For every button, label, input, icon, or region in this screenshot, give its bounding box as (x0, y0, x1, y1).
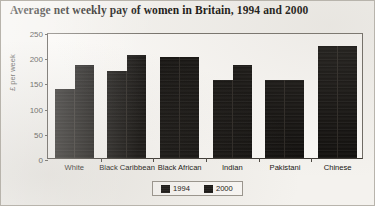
bar-group (48, 34, 101, 158)
bar-2000 (338, 46, 357, 158)
bar-group (153, 34, 206, 158)
x-axis-tick-label: Indian (222, 163, 243, 172)
y-axis-label: £ per week (8, 54, 17, 91)
bar-1994 (318, 46, 338, 158)
bar-series-container (48, 34, 362, 158)
bar-group (311, 34, 364, 158)
x-axis-tick-mark (206, 158, 207, 162)
y-axis-tick-label: 100 (30, 105, 43, 114)
bar-2000 (75, 65, 94, 158)
bar-2000 (233, 65, 252, 158)
x-axis-tick-mark (311, 158, 312, 162)
bar-2000 (127, 55, 146, 158)
x-axis-tick-label: White (65, 163, 84, 172)
bar-2000 (180, 57, 199, 158)
chart-figure: Average net weekly pay of women in Brita… (0, 0, 375, 206)
y-axis-tick-label: 0 (39, 156, 43, 165)
bar-1994 (213, 80, 233, 158)
bar-group (259, 34, 312, 158)
bar-2000 (285, 80, 304, 158)
y-axis-tick-label: 250 (30, 30, 43, 39)
x-axis-tick-mark (101, 158, 102, 162)
y-axis-tick-label: 50 (34, 130, 43, 139)
bar-group (206, 34, 259, 158)
legend-item-2000: 2000 (204, 184, 233, 193)
legend-label: 2000 (216, 184, 233, 193)
legend-label: 1994 (173, 184, 190, 193)
y-axis-tick-label: 150 (30, 80, 43, 89)
x-axis-tick-mark (153, 158, 154, 162)
plot-area: 050100150200250 WhiteBlack CaribbeanBlac… (47, 33, 363, 159)
x-axis-tick-label: Black Caribbean (99, 163, 155, 172)
x-axis-tick-label: Pakistani (270, 163, 301, 172)
chart-title: Average net weekly pay of women in Brita… (10, 4, 308, 16)
y-axis-tick-label: 200 (30, 55, 43, 64)
chart-legend: 19942000 (152, 181, 243, 196)
legend-item-1994: 1994 (161, 184, 190, 193)
y-axis-tick-mark (45, 160, 49, 161)
bar-1994 (55, 89, 75, 158)
legend-swatch-icon (161, 185, 170, 193)
x-axis-tick-mark (259, 158, 260, 162)
bar-group (101, 34, 154, 158)
legend-swatch-icon (204, 185, 213, 193)
x-axis-tick-label: Black African (158, 163, 202, 172)
bar-1994 (265, 80, 285, 158)
x-axis-tick-label: Chinese (324, 163, 352, 172)
bar-1994 (160, 57, 180, 158)
bar-1994 (107, 71, 127, 158)
